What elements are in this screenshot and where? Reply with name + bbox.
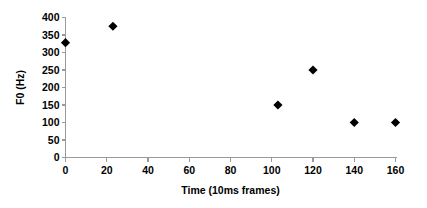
- data-point-marker: [108, 22, 117, 31]
- y-tick-label: 300: [42, 46, 60, 58]
- y-tick-label: 400: [42, 11, 60, 23]
- x-tick-label: 80: [225, 164, 237, 176]
- y-tick-label: 200: [42, 81, 60, 93]
- x-tick-label: 160: [387, 164, 405, 176]
- data-point-marker: [308, 65, 317, 74]
- scatter-chart: 0501001502002503003504000204060801001201…: [0, 0, 427, 208]
- y-axis-title: F0 (Hz): [14, 70, 26, 105]
- data-point-marker: [61, 38, 70, 47]
- x-axis-title: Time (10ms frames): [181, 184, 279, 196]
- data-point-marker: [350, 118, 359, 127]
- y-tick-label: 100: [42, 116, 60, 128]
- x-tick-label: 120: [304, 164, 322, 176]
- y-tick-label: 150: [42, 99, 60, 111]
- x-tick-label: 100: [263, 164, 281, 176]
- x-tick-label: 0: [63, 164, 69, 176]
- x-tick-label: 60: [183, 164, 195, 176]
- x-tick-label: 20: [101, 164, 113, 176]
- data-point-marker: [273, 100, 282, 109]
- y-tick-label: 350: [42, 29, 60, 41]
- chart-canvas: 0501001502002503003504000204060801001201…: [0, 0, 427, 208]
- x-tick-label: 140: [345, 164, 363, 176]
- y-tick-label: 0: [54, 151, 60, 163]
- x-tick-label: 40: [142, 164, 154, 176]
- y-tick-label: 50: [48, 134, 60, 146]
- y-tick-label: 250: [42, 64, 60, 76]
- data-point-marker: [391, 118, 400, 127]
